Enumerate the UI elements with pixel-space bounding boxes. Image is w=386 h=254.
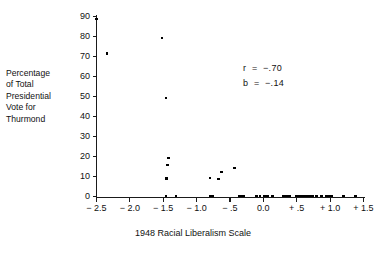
data-point: [259, 195, 262, 198]
y-tick-label: 60: [62, 71, 90, 81]
y-tick-label: 40: [62, 111, 90, 121]
data-point: [315, 195, 318, 198]
y-tick-mark: [93, 136, 97, 137]
data-point: [266, 195, 269, 198]
data-point: [320, 195, 323, 198]
data-point: [289, 195, 292, 198]
data-point: [161, 37, 164, 40]
data-point: [211, 195, 214, 198]
data-point: [165, 97, 168, 100]
data-point: [106, 52, 109, 55]
x-axis-label: 1948 Racial Liberalism Scale: [0, 228, 386, 238]
y-tick-label: 70: [62, 51, 90, 61]
y-tick-mark: [93, 116, 97, 117]
y-tick-mark: [93, 56, 97, 57]
data-point: [255, 195, 258, 198]
data-point: [220, 171, 223, 174]
y-tick-mark: [93, 96, 97, 97]
data-point: [209, 177, 212, 180]
data-point: [165, 177, 168, 180]
x-tick-label: + 1.5: [344, 203, 384, 213]
x-tick-mark: [163, 198, 164, 202]
data-point: [271, 195, 274, 198]
x-tick-mark: [129, 198, 130, 202]
data-point: [166, 164, 169, 167]
y-tick-label: 50: [62, 91, 90, 101]
y-axis-line: [96, 15, 97, 198]
y-tick-label: 20: [62, 151, 90, 161]
data-point: [175, 195, 178, 198]
x-tick-mark: [263, 198, 264, 202]
x-tick-mark: [229, 198, 230, 202]
data-point: [217, 178, 220, 181]
x-tick-mark: [96, 198, 97, 202]
data-point: [354, 195, 357, 198]
scatter-plot-figure: Percentage of Total Presidential Vote fo…: [0, 0, 386, 254]
data-point: [95, 18, 98, 21]
y-tick-mark: [93, 176, 97, 177]
data-point: [242, 195, 245, 198]
data-point: [233, 167, 236, 170]
y-tick-label: 10: [62, 171, 90, 181]
data-point: [342, 195, 345, 198]
data-point: [167, 157, 170, 160]
y-tick-label: 80: [62, 31, 90, 41]
x-tick-mark: [196, 198, 197, 202]
data-point: [165, 195, 168, 198]
data-point: [311, 195, 314, 198]
y-tick-mark: [93, 156, 97, 157]
x-tick-mark: [363, 198, 364, 202]
x-tick-mark: [296, 198, 297, 202]
y-tick-label: 0: [62, 191, 90, 201]
y-tick-mark: [93, 36, 97, 37]
annotation-slope: b = −.14: [243, 78, 284, 88]
y-tick-mark: [93, 76, 97, 77]
y-axis-label: Percentage of Total Presidential Vote fo…: [6, 68, 64, 125]
annotation-correlation: r = −.70: [243, 63, 282, 73]
y-tick-label: 30: [62, 131, 90, 141]
y-tick-label: 90: [62, 11, 90, 21]
data-point: [331, 195, 334, 198]
x-tick-mark: [330, 198, 331, 202]
